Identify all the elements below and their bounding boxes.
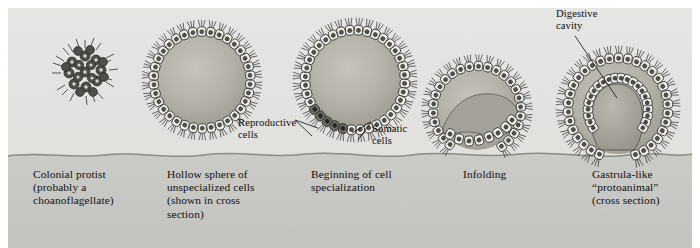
caption-hollow-sphere: Hollow sphere of unspecialized cells (sh… bbox=[167, 168, 255, 221]
caption-gastrula-protoanimal: Gastrula-like “protoanimal” (cross secti… bbox=[592, 168, 660, 208]
illustration-canvas bbox=[0, 0, 700, 248]
caption-colonial-protist: Colonial protist (probably a choanoflage… bbox=[33, 168, 114, 208]
label-reproductive-cells: Reproductive cells bbox=[238, 117, 296, 141]
caption-cell-specialization: Beginning of cell specialization bbox=[311, 168, 392, 194]
caption-infolding: Infolding bbox=[463, 168, 506, 181]
figure-root: Reproductive cells Somatic cells Digesti… bbox=[0, 0, 700, 248]
digestive-cavity-lumen bbox=[591, 84, 642, 150]
label-somatic-cells: Somatic cells bbox=[372, 123, 407, 147]
label-digestive-cavity: Digestive cavity bbox=[556, 8, 598, 32]
